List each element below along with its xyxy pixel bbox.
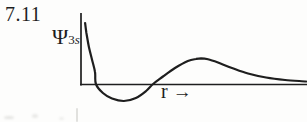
figure-7-11: 7.11 Ψ3s r→ xyxy=(0,0,307,122)
right-arrow-icon: → xyxy=(173,81,192,102)
r-symbol: r xyxy=(161,80,168,102)
psi-3s-curve xyxy=(85,23,306,101)
x-axis-label: r→ xyxy=(161,81,192,101)
wavefunction-plot xyxy=(0,0,307,122)
